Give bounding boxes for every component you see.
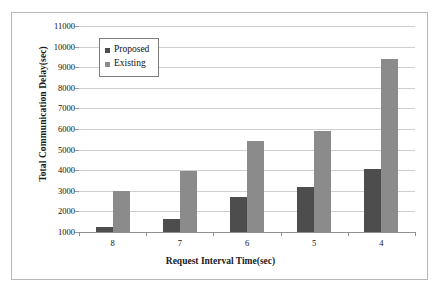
bar-existing-7 bbox=[180, 171, 197, 232]
y-axis-tick-label: 9000 bbox=[58, 63, 75, 72]
bar-proposed-6 bbox=[230, 197, 247, 232]
bar-proposed-7 bbox=[163, 219, 180, 232]
y-axis-tick-label: 2000 bbox=[58, 207, 75, 216]
y-axis-tick-label: 11000 bbox=[54, 22, 75, 31]
y-axis-tick-label: 3000 bbox=[58, 187, 75, 196]
bar-proposed-5 bbox=[297, 187, 314, 232]
x-axis-tick-mark bbox=[146, 232, 147, 236]
y-axis-title: Total Communication Delay(sec) bbox=[38, 27, 48, 202]
x-axis-tick-mark bbox=[281, 232, 282, 236]
y-axis-tick-label: 4000 bbox=[58, 166, 75, 175]
legend-label: Proposed bbox=[114, 45, 149, 55]
x-axis-tick-label: 6 bbox=[245, 239, 249, 248]
bar-existing-8 bbox=[113, 191, 130, 232]
legend-swatch-icon bbox=[105, 62, 110, 67]
x-axis-line bbox=[79, 232, 415, 233]
x-axis-tick-mark bbox=[415, 232, 416, 236]
y-axis-tick-label: 8000 bbox=[58, 84, 75, 93]
x-axis-tick-mark bbox=[213, 232, 214, 236]
legend-swatch-icon bbox=[105, 48, 110, 53]
x-axis-tick-label: 8 bbox=[110, 239, 114, 248]
x-axis-tick-mark bbox=[79, 232, 80, 236]
legend-item-proposed: Proposed bbox=[105, 43, 149, 57]
x-axis-title: Request Interval Time(sec) bbox=[12, 256, 429, 266]
chart-legend: ProposedExisting bbox=[99, 38, 159, 77]
bar-existing-6 bbox=[247, 141, 264, 232]
y-axis-tick-label: 10000 bbox=[54, 42, 75, 51]
bar-existing-5 bbox=[314, 131, 331, 232]
x-axis-tick-label: 7 bbox=[178, 239, 182, 248]
x-axis-tick-label: 4 bbox=[379, 239, 383, 248]
bar-proposed-4 bbox=[364, 169, 381, 232]
chart-figure: Total Communication Delay(sec) 100020003… bbox=[11, 12, 428, 280]
y-axis-tick-label: 7000 bbox=[58, 104, 75, 113]
y-axis-tick-label: 1000 bbox=[58, 228, 75, 237]
bar-existing-4 bbox=[381, 59, 398, 232]
x-axis-tick-mark bbox=[348, 232, 349, 236]
legend-label: Existing bbox=[114, 59, 146, 69]
y-axis-tick-label: 6000 bbox=[58, 125, 75, 134]
y-axis-tick-label: 5000 bbox=[58, 145, 75, 154]
legend-item-existing: Existing bbox=[105, 57, 149, 71]
x-axis-tick-label: 5 bbox=[312, 239, 316, 248]
